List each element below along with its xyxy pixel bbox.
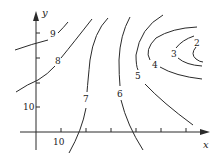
contour-2 [193, 47, 203, 62]
contour-label-6: 6 [117, 89, 123, 99]
contour-label-2: 2 [194, 38, 200, 48]
contour-7 [69, 18, 108, 153]
contour-9 [15, 22, 68, 50]
contour-label-7: 7 [83, 94, 89, 104]
y-tick-label: 10 [23, 102, 35, 112]
x-axis-arrow-icon [200, 129, 210, 135]
contour-plot: y x 10 10 9 8 7 6 5 4 3 2 [0, 0, 216, 160]
contour-label-8: 8 [55, 56, 61, 66]
y-axis-arrow-icon [33, 11, 39, 21]
contour-label-3: 3 [171, 49, 177, 59]
x-tick-label: 10 [53, 137, 65, 147]
contour-label-5: 5 [135, 71, 141, 81]
contour-6 [119, 17, 143, 150]
contour-label-4: 4 [152, 60, 158, 70]
contour-label-9: 9 [50, 29, 56, 39]
x-axis-label: x [203, 139, 209, 150]
contour-5 [136, 15, 193, 125]
y-axis-label: y [41, 7, 48, 18]
